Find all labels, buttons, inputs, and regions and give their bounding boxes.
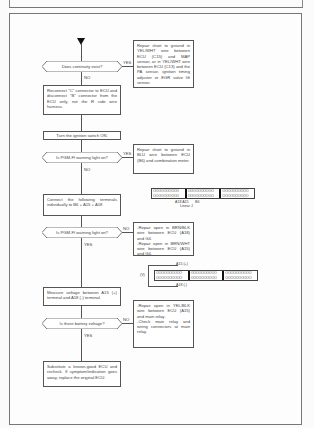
decision-warning-light-2: Is PGM-FI warning light on? <box>42 227 122 238</box>
step-ignition-on: Turn the ignition switch ON. <box>43 131 121 140</box>
connector-section: OOOOOOOOOOOOOOOOOOOO <box>155 271 190 280</box>
decision-battery-voltage: Is there battery voltage? <box>42 318 122 329</box>
connector-pin-label: B6 <box>195 200 199 204</box>
decision-continuity: Does continuity exist? <box>42 61 122 72</box>
yes-label: YES <box>123 151 131 156</box>
no-label: NO <box>123 226 129 231</box>
meter-lead-line <box>148 265 149 286</box>
decision-warning-light-1: Is PGM-FI warning light on? <box>42 152 122 163</box>
repair-box-3: -Repair open in BRN/BLK wire between ECU… <box>133 222 194 256</box>
yes-label: YES <box>123 60 131 65</box>
repair-box-2: Repair short to ground in BLU wire betwe… <box>133 144 194 174</box>
step-measure-voltage: Measure voltage between A15 (+) terminal… <box>43 287 121 306</box>
connector-diagram-1: OOOOOOOOOOOOOOOOOOOO OOOOOOOOOOOOOOOOOOO… <box>151 188 255 199</box>
no-label: NO <box>123 317 129 322</box>
yes-label: YES <box>84 333 92 338</box>
no-connector-line <box>122 323 133 324</box>
meter-lead-line <box>148 286 178 287</box>
header-bar <box>9 0 303 8</box>
step-reconnect: Reconnect "C" connector to ECU and disco… <box>43 85 121 115</box>
yes-connector-line <box>122 66 133 67</box>
connector-pin-label: A18 (-) <box>176 283 187 287</box>
connector-section: OOOOOOOOOOOOOOOOOOOO <box>224 271 257 280</box>
repair-box-4: -Repair open in YEL/BLK wire between ECU… <box>133 300 194 348</box>
connector-pin-label: A15 (+) <box>176 262 188 266</box>
connector-caption: Linear J <box>180 204 193 208</box>
decision-text: Does continuity exist? <box>62 64 103 69</box>
connector-section: OOOOOOOOOOOOOOOOOOOO <box>190 271 225 280</box>
connector-section: OOOOOOOOOOOOOOOOOOOO <box>187 189 222 198</box>
connector-section: OOOOOOOOOOOOOOOOOOOO <box>152 189 187 198</box>
step-connect-terminals: Connect the following terminals individu… <box>43 194 121 216</box>
connector-section: OOOOOOOOOOOOOOOOOOOO <box>221 189 254 198</box>
decision-text: Is PGM-FI warning light on? <box>56 155 108 160</box>
no-connector-line <box>122 232 133 233</box>
no-label: NO <box>84 167 90 172</box>
no-label: NO <box>84 75 90 80</box>
decision-text: Is PGM-FI warning light on? <box>56 230 108 235</box>
yes-label: YES <box>84 242 92 247</box>
voltmeter-label: (V) <box>140 273 145 277</box>
repair-box-1: Repair short to ground in YEL/WHT wire b… <box>133 40 194 88</box>
step-substitute-ecu: Substitute a known-good ECU and recheck.… <box>43 361 121 387</box>
connector-diagram-2: OOOOOOOOOOOOOOOOOOOO OOOOOOOOOOOOOOOOOOO… <box>154 270 258 281</box>
decision-text: Is there battery voltage? <box>60 321 105 326</box>
meter-lead-line <box>148 265 178 266</box>
yes-connector-line <box>122 157 133 158</box>
